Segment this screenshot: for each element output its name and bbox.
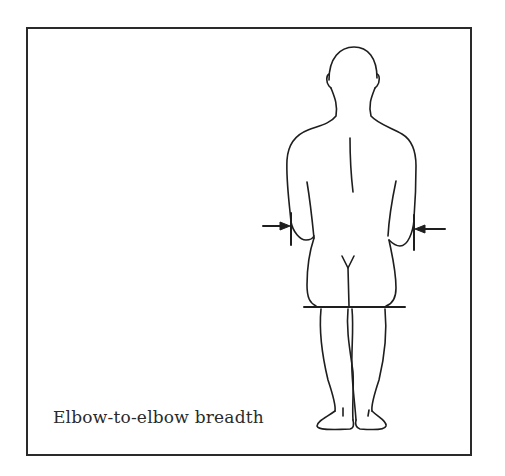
- torso-outline: [287, 88, 416, 238]
- head-outline: [327, 47, 380, 88]
- left-elbow-marker: [263, 213, 291, 245]
- elbow-region: [291, 220, 414, 246]
- arrow-right-icon: [280, 222, 290, 230]
- legs-outline: [317, 309, 386, 430]
- arrow-left-icon: [415, 225, 425, 233]
- seated-figure-illustration: [0, 0, 505, 476]
- hips-outline: [307, 238, 396, 306]
- right-elbow-marker: [414, 215, 445, 250]
- figure-caption: Elbow-to-elbow breadth: [53, 407, 264, 427]
